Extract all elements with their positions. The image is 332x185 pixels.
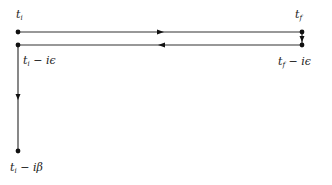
arrow-right-icon — [157, 30, 164, 35]
arrow-down-icon — [300, 36, 305, 42]
label-suffix: − iϵ — [30, 54, 56, 67]
label-ti: ti — [16, 9, 23, 22]
node-dot-ti-minus-ibeta — [16, 149, 21, 154]
label-subscript: f — [299, 14, 302, 22]
node-dot-tf-minus-ieps — [300, 43, 305, 48]
arrow-left-icon — [158, 43, 165, 48]
label-ti-minus-ieps: ti − iϵ — [23, 55, 56, 68]
node-dot-ti-minus-ieps — [16, 43, 21, 48]
label-suffix: − iβ — [17, 161, 43, 174]
contour-diagram — [0, 0, 332, 185]
node-dot-ti — [16, 30, 21, 35]
label-ti-minus-ibeta: ti − iβ — [10, 162, 43, 175]
label-suffix: − iϵ — [285, 55, 311, 68]
label-tf-minus-ieps: tf − iϵ — [278, 56, 311, 69]
label-subscript: i — [20, 14, 22, 22]
label-tf: tf — [295, 9, 302, 22]
node-dot-tf — [300, 30, 305, 35]
arrow-down-icon — [16, 94, 21, 100]
